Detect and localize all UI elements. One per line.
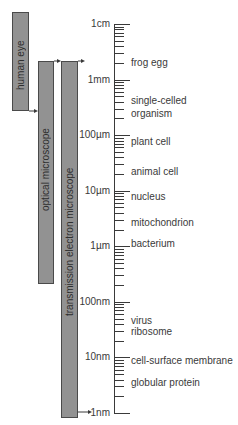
decade-label: 10µm: [40, 185, 110, 197]
decade-label: 1µm: [40, 240, 110, 252]
decade-label: 1mm: [40, 74, 110, 86]
object-label-nucleus: nucleus: [131, 191, 165, 203]
object-label-line1: single-celled: [131, 94, 187, 107]
arrow-tem-top: [78, 59, 85, 63]
tem-label: transmission electron microscope: [62, 155, 77, 316]
scale-ticks: [114, 24, 130, 414]
arrow-human-eye: [29, 109, 38, 113]
object-label-bacterium: bacterium: [131, 238, 175, 250]
arrow-optical-microscope: [54, 59, 61, 63]
decade-label: 10nm: [40, 351, 110, 363]
object-label-line2: organism: [131, 107, 187, 120]
object-label-cell-surface-membrane: cell-surface membrane: [131, 355, 233, 367]
decade-label: 100µm: [40, 129, 110, 141]
object-label-globular-protein: globular protein: [131, 377, 200, 389]
object-label-mitochondrion: mitochondrion: [131, 217, 194, 229]
object-label-plant-cell: plant cell: [131, 136, 170, 148]
decade-label: 100nm: [40, 296, 110, 308]
object-label-single-celled-organism: single-celled organism: [131, 94, 187, 120]
decade-label: 1cm: [40, 18, 110, 30]
object-label-virus: virus: [131, 315, 152, 326]
object-label-ribosome: ribosome: [131, 326, 172, 337]
human-eye-label: human eye: [13, 34, 28, 90]
object-label-frog-egg: frog egg: [131, 57, 168, 69]
object-label-animal-cell: animal cell: [131, 166, 178, 178]
decade-label: 1nm: [40, 407, 110, 419]
